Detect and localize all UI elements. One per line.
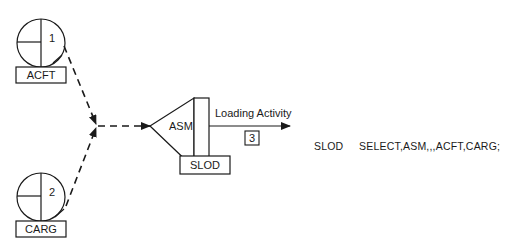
queue-number-2: 2 (49, 187, 55, 198)
queue-label-acft: ACFT (16, 70, 66, 81)
activity-number: 3 (245, 133, 259, 144)
queue-label-carg: CARG (16, 224, 66, 235)
statement-label: SLOD (314, 141, 343, 152)
activity-label: Loading Activity (215, 108, 291, 119)
assemble-label: ASM (169, 121, 193, 132)
dashed-flow-lines (64, 46, 150, 206)
assemble-block-label: SLOD (180, 160, 230, 171)
network-diagram (0, 0, 509, 246)
statement-code: SELECT,ASM,,,ACFT,CARG; (359, 141, 500, 152)
queue-number-1: 1 (49, 33, 55, 44)
